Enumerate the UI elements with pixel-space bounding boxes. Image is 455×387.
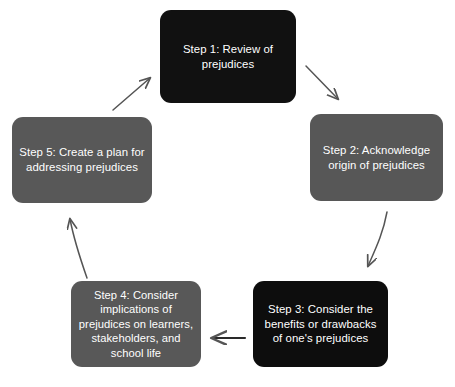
step-box-3[interactable]: Step 3: Consider the benefits or drawbac… [253, 281, 388, 367]
arrow-step4-to-step5 [70, 219, 87, 278]
arrow-step2-to-step3 [368, 212, 387, 266]
step-box-4[interactable]: Step 4: Consider implications of prejudi… [71, 281, 201, 367]
arrow-step1-to-step2 [306, 66, 338, 99]
step-box-5[interactable]: Step 5: Create a plan for addressing pre… [12, 117, 152, 203]
step-box-1[interactable]: Step 1: Review of prejudices [160, 10, 296, 103]
step-3-label: Step 3: Consider the benefits or drawbac… [260, 302, 381, 346]
arrow-step5-to-step1 [113, 78, 150, 110]
step-5-label: Step 5: Create a plan for addressing pre… [19, 145, 145, 174]
step-4-label: Step 4: Consider implications of prejudi… [78, 288, 194, 361]
step-1-label: Step 1: Review of prejudices [167, 42, 289, 71]
step-box-2[interactable]: Step 2: Acknowledge origin of prejudices [310, 114, 443, 201]
process-cycle-diagram: Step 1: Review of prejudices Step 2: Ack… [0, 0, 455, 387]
step-2-label: Step 2: Acknowledge origin of prejudices [317, 143, 436, 172]
